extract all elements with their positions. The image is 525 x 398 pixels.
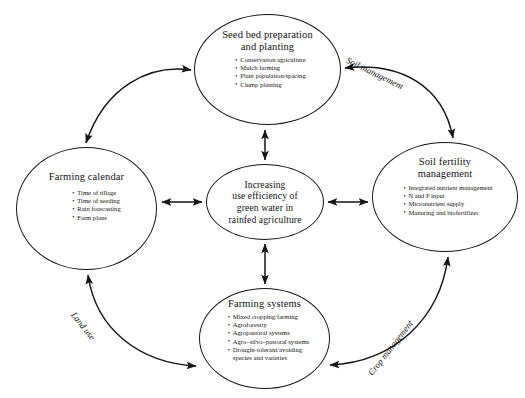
node-farming-calendar[interactable]: Farming calendar Time of tillage Time of…: [16, 147, 157, 270]
list-item: Manuring and biofertilizer: [403, 209, 492, 217]
node-center-title: Increasing use efficiency of green water…: [228, 179, 301, 225]
list-item: Clump planting: [235, 81, 305, 89]
node-seed-bed-preparation-list: Conservation agriculture Mulch farming P…: [229, 56, 305, 89]
list-item: Time of seeding: [72, 197, 120, 205]
node-farming-systems-list: Mixed cropping/farming Agroforestry Agro…: [220, 313, 309, 362]
list-item: Rain forecasting: [72, 205, 120, 213]
list-item: Drought-tolerant/avoiding species and va…: [228, 346, 309, 362]
list-item: Micronutrient supply: [403, 200, 492, 208]
connector-arc-soilfertility-seedbed: [345, 67, 453, 138]
arc-label-crop-management: Crop management: [366, 319, 415, 377]
list-item: Plant population/spacing: [235, 72, 305, 80]
node-soil-fertility-management[interactable]: Soil fertility management Integrated nut…: [372, 142, 518, 252]
list-item: Integrated nutrient management: [403, 184, 492, 192]
node-center[interactable]: Increasing use efficiency of green water…: [206, 164, 324, 240]
list-item: Mixed cropping/farming: [228, 313, 309, 321]
list-item: Time of tillage: [72, 189, 120, 197]
node-farming-systems[interactable]: Farming systems Mixed cropping/farming A…: [199, 288, 330, 389]
connector-arc-calendar-farmingsystems: [88, 275, 196, 366]
list-item: Agropastoral systems: [228, 329, 309, 337]
node-seed-bed-preparation[interactable]: Seed bed preparation and planting Conser…: [194, 14, 341, 125]
node-farming-systems-title: Farming systems: [228, 298, 301, 310]
list-item: Farm plans: [72, 214, 120, 222]
node-farming-calendar-title: Farming calendar: [49, 171, 124, 183]
list-item: Conservation agriculture: [235, 56, 305, 64]
list-item: Agroforestry: [228, 321, 309, 329]
arc-label-land-use: Land use: [69, 310, 97, 342]
node-soil-fertility-management-list: Integrated nutrient management N and P i…: [397, 184, 492, 217]
diagram-canvas: Increasing use efficiency of green water…: [0, 0, 525, 398]
node-seed-bed-preparation-title: Seed bed preparation and planting: [222, 29, 313, 53]
arc-label-soil-management: Soil management: [345, 55, 405, 91]
node-farming-calendar-list: Time of tillage Time of seeding Rain for…: [52, 189, 120, 222]
connector-arc-seedbed-calendar: [86, 69, 191, 143]
list-item: N and P input: [403, 192, 492, 200]
list-item: Mulch farming: [235, 64, 305, 72]
list-item: Agro–silvo–pastoral systems: [228, 338, 309, 346]
node-soil-fertility-management-title: Soil fertility management: [418, 156, 473, 180]
